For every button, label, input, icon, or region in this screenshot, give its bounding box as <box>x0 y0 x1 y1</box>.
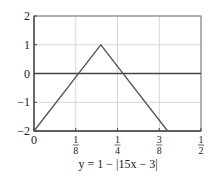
x-tick-numerator: 1 <box>73 134 78 145</box>
x-tick-numerator: 3 <box>157 134 162 145</box>
y-tick-labels: 210−1−2 <box>17 9 30 138</box>
x-tick-numerator: 1 <box>199 134 204 145</box>
x-tick-denominator: 4 <box>115 145 120 156</box>
y-tick-label: 1 <box>24 38 30 52</box>
chart-caption: y = 1 − |15x − 3| <box>78 157 157 171</box>
x-tick-labels: 018143812 <box>31 133 204 156</box>
function-line <box>34 45 168 131</box>
x-tick-denominator: 2 <box>199 145 204 156</box>
y-tick-label: 0 <box>24 67 30 81</box>
y-tick-label: 2 <box>24 9 30 23</box>
y-tick-label: −2 <box>17 124 30 138</box>
x-tick-denominator: 8 <box>157 145 162 156</box>
x-tick-denominator: 8 <box>73 145 78 156</box>
x-tick-numerator: 1 <box>115 134 120 145</box>
series-line <box>34 45 168 131</box>
y-tick-label: −1 <box>17 95 30 109</box>
x-tick-label: 0 <box>31 133 37 147</box>
chart: 210−1−2 018143812 y = 1 − |15x − 3| <box>0 0 219 178</box>
